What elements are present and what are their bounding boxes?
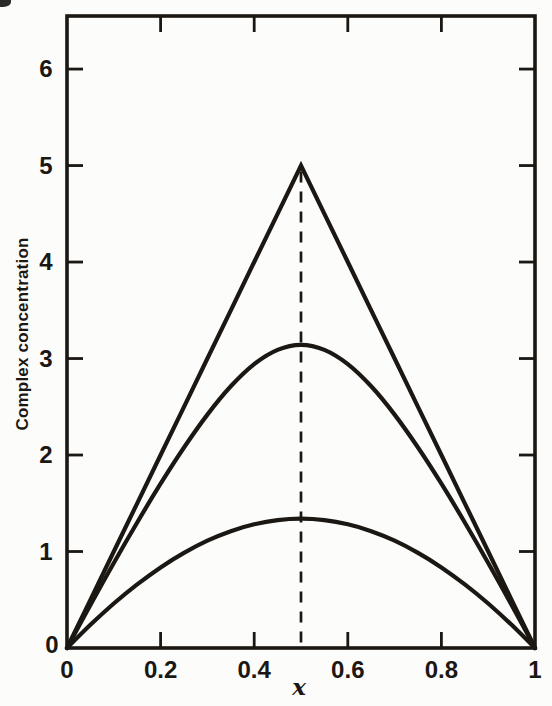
- x-tick-label-0.8: 0.8: [425, 656, 458, 684]
- x-tick-label-0.2: 0.2: [144, 656, 177, 684]
- y-axis-label: Complex concentration: [13, 237, 33, 430]
- y-tick-label-5: 5: [39, 152, 52, 180]
- x-tick-label-0.4: 0.4: [238, 656, 271, 684]
- job-plot-figure: Complex concentration x 00.20.40.60.81 0…: [0, 0, 552, 706]
- y-tick-label-4: 4: [39, 248, 52, 276]
- y-tick-label-0: 0: [45, 631, 58, 659]
- y-tick-label-6: 6: [39, 55, 52, 83]
- y-tick-label-2: 2: [39, 441, 52, 469]
- x-tick-label-1: 1: [528, 656, 541, 684]
- x-tick-label-0.6: 0.6: [331, 656, 364, 684]
- chart-canvas: [0, 0, 552, 706]
- x-tick-label-0: 0: [60, 656, 73, 684]
- y-tick-label-1: 1: [39, 538, 52, 566]
- y-tick-label-3: 3: [39, 345, 52, 373]
- x-axis-label: x: [292, 673, 306, 700]
